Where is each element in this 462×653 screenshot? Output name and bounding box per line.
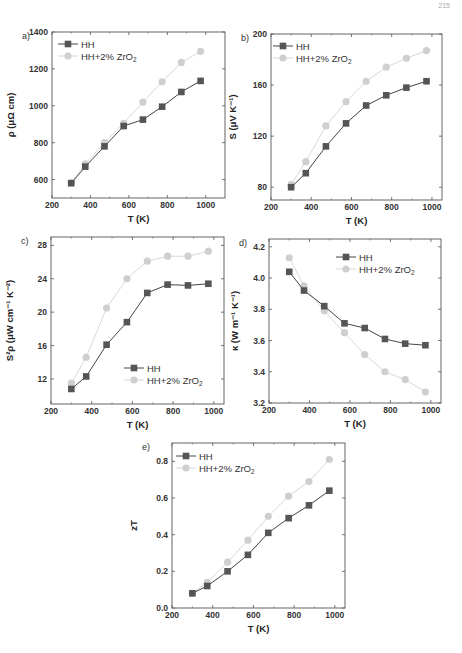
data-point-circle: [285, 493, 292, 500]
data-point-square: [326, 487, 333, 494]
y-axis-label: zT: [128, 520, 139, 531]
data-point-circle: [326, 456, 333, 463]
y-tick-label: 0.0: [156, 603, 168, 613]
data-point-square: [265, 530, 272, 537]
data-point-circle: [265, 513, 272, 520]
data-point-circle: [244, 537, 251, 544]
data-point-square: [189, 590, 196, 597]
x-tick-label: 800: [287, 610, 301, 620]
y-tick-label: 0.8: [156, 456, 168, 466]
legend-label-hh: HH: [199, 451, 213, 462]
data-point-square: [245, 552, 252, 559]
panel-label: e): [142, 442, 150, 452]
legend-label-zro2: HH+2% ZrO2: [199, 463, 255, 476]
legend-circle-icon: [182, 464, 189, 471]
data-point-square: [306, 502, 313, 509]
plot-frame: [172, 443, 345, 608]
data-point-square: [224, 568, 231, 575]
x-tick-label: 1000: [325, 610, 344, 620]
x-axis-label: T (K): [248, 623, 270, 634]
legend: HHHH+2% ZrO2: [176, 451, 255, 476]
x-tick-label: 400: [206, 610, 220, 620]
legend-square-icon: [183, 453, 190, 460]
data-point-circle: [305, 478, 312, 485]
y-tick-label: 0.6: [156, 493, 168, 503]
y-tick-label: 0.4: [156, 530, 168, 540]
data-point-circle: [224, 559, 231, 566]
y-tick-label: 0.2: [156, 566, 168, 576]
x-tick-label: 600: [246, 610, 260, 620]
data-point-square: [204, 583, 211, 590]
data-point-square: [285, 515, 292, 522]
